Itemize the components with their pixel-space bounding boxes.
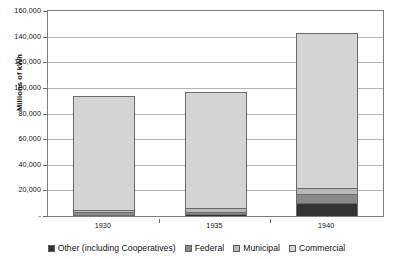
bar-segment[interactable] [74,215,134,216]
legend-label: Commercial [299,243,345,253]
bar-segment[interactable] [186,214,246,216]
y-tick-label: 120,000 [14,58,41,66]
bar-segment[interactable] [297,203,357,216]
legend-item[interactable]: Other (including Cooperatives) [48,243,176,253]
legend-label: Federal [195,243,225,253]
y-tick-label: 80,000 [18,110,41,118]
chart-legend: Other (including Cooperatives)FederalMun… [0,240,393,256]
y-tick-label: - [39,212,42,220]
x-tick-mark [270,219,271,223]
legend-item[interactable]: Municipal [233,243,280,253]
bar-stack[interactable] [73,96,135,216]
x-tick-label: 1930 [63,221,143,230]
legend-swatch-icon [48,245,55,252]
legend-item[interactable]: Federal [185,243,225,253]
legend-swatch-icon [233,245,240,252]
bar-segment[interactable] [297,194,357,203]
x-tick-mark [159,219,160,223]
y-tick-label: 140,000 [14,33,41,41]
y-tick-label: 40,000 [18,161,41,169]
y-tick-label: 160,000 [14,7,41,15]
bar-stack[interactable] [185,92,247,216]
y-tick-label: 100,000 [14,84,41,92]
legend-swatch-icon [289,245,296,252]
legend-label: Other (including Cooperatives) [58,243,176,253]
plot-area [47,10,384,217]
bar-segment[interactable] [297,34,357,188]
y-tick-label: 20,000 [18,186,41,194]
legend-label: Municipal [243,243,280,253]
legend-item[interactable]: Commercial [289,243,345,253]
stacked-bar-chart: Millions of kWh 160,000140,000120,000100… [0,0,393,259]
bar-segment[interactable] [74,97,134,210]
x-tick-label: 1935 [175,221,255,230]
y-tick-label: 60,000 [18,135,41,143]
legend-swatch-icon [185,245,192,252]
bar-segment[interactable] [186,93,246,208]
x-axis: 193019351940 [47,219,384,235]
bar-stack[interactable] [296,33,358,216]
y-axis: 160,000140,000120,000100,00080,00060,000… [0,0,47,259]
x-tick-label: 1940 [286,221,366,230]
